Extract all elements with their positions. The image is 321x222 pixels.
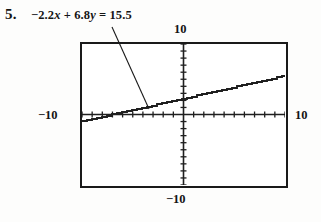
equation-coefficient-a: −2.2: [31, 8, 54, 22]
equation-operator-plus: +: [64, 8, 71, 22]
calculator-screen: [80, 42, 288, 188]
exercise-figure: 5. −2.2x + 6.8y = 15.5 10 −10 −10 10: [0, 0, 321, 222]
plot-area: [82, 44, 286, 186]
equation-coefficient-b: 6.8: [74, 8, 90, 22]
equation-variable-y: y: [90, 8, 96, 22]
window-xmin-label: −10: [38, 108, 58, 123]
equation-label: −2.2x + 6.8y = 15.5: [31, 8, 132, 23]
problem-number: 5.: [5, 6, 17, 23]
equation-variable-x: x: [54, 8, 60, 22]
equation-operator-equals: =: [99, 8, 106, 22]
plot-svg: [82, 44, 285, 185]
window-ymin-label: −10: [166, 192, 186, 207]
window-ymax-label: 10: [174, 22, 187, 37]
window-xmax-label: 10: [295, 108, 308, 123]
equation-right-side: 15.5: [110, 8, 132, 22]
